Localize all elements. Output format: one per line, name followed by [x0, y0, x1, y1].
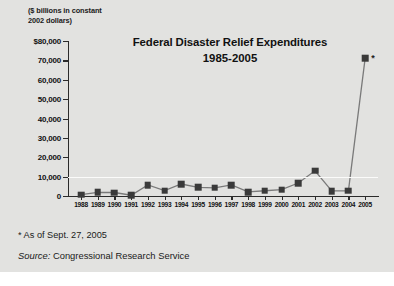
data-point-marker [145, 182, 152, 189]
x-axis-tick-label: 1994 [174, 201, 188, 208]
x-axis-tick [248, 196, 249, 200]
y-axis-tick [63, 138, 68, 139]
data-point-marker [178, 181, 185, 188]
data-point-marker [362, 55, 369, 62]
y-axis-tick-label: 30,000 [38, 133, 61, 142]
x-axis-tick [315, 196, 316, 200]
x-axis-tick [114, 196, 115, 200]
x-axis-tick-label: 2004 [342, 201, 356, 208]
data-point-marker [111, 189, 118, 196]
y-axis-tick [63, 80, 68, 81]
data-point-marker [78, 191, 85, 198]
y-axis-tick-label: $80,000 [33, 37, 61, 46]
x-axis-tick [298, 196, 299, 200]
source-line: Source: Congressional Research Service [18, 250, 189, 261]
y-axis-tick [63, 60, 68, 61]
x-axis-tick-label: 1995 [191, 201, 205, 208]
data-point-marker [312, 168, 319, 175]
x-axis-tick-label: 1993 [158, 201, 172, 208]
data-point-marker [278, 186, 285, 193]
y-axis-units-note: ($ billions in constant 2002 dollars) [28, 6, 102, 25]
x-axis-tick [98, 196, 99, 200]
x-axis-tick-label: 1988 [74, 201, 88, 208]
y-axis-tick [63, 157, 68, 158]
data-point-marker [195, 184, 202, 191]
x-axis-tick [148, 196, 149, 200]
data-point-marker [295, 180, 302, 187]
y-axis-tick-label: 0 [57, 192, 61, 201]
x-axis-tick-label: 1992 [141, 201, 155, 208]
x-axis-tick-label: 2005 [358, 201, 372, 208]
y-axis-tick-label: 60,000 [38, 75, 61, 84]
data-point-marker [262, 187, 269, 194]
x-axis-tick-label: 1996 [208, 201, 222, 208]
source-label: Source: [18, 250, 50, 261]
chart-figure: ($ billions in constant 2002 dollars) Fe… [0, 0, 394, 272]
x-axis-tick [348, 196, 349, 200]
y-axis-tick-label: 70,000 [38, 56, 61, 65]
x-axis-tick [198, 196, 199, 200]
data-point-marker [245, 189, 252, 196]
x-axis-tick [265, 196, 266, 200]
y-axis-tick-label: 10,000 [38, 172, 61, 181]
footnote-asof: * As of Sept. 27, 2005 [18, 230, 107, 240]
y-axis-tick [63, 41, 68, 42]
x-axis-tick [181, 196, 182, 200]
y-axis-tick-label: 40,000 [38, 114, 61, 123]
x-axis-tick [165, 196, 166, 200]
x-axis-tick [282, 196, 283, 200]
x-axis-tick-label: 1990 [108, 201, 122, 208]
y-axis-tick-label: 50,000 [38, 95, 61, 104]
x-axis-tick-label: 1998 [241, 201, 255, 208]
series-line [68, 41, 378, 196]
x-axis-tick-label: 1999 [258, 201, 272, 208]
x-axis-tick-label: 2001 [291, 201, 305, 208]
x-axis-tick [365, 196, 366, 200]
x-axis-tick-label: 1991 [124, 201, 138, 208]
spike-asterisk-annotation: * [371, 53, 375, 63]
data-point-marker [345, 187, 352, 194]
data-point-marker [211, 185, 218, 192]
x-axis-tick [332, 196, 333, 200]
y-axis-tick [63, 196, 68, 197]
x-axis-tick-label: 2003 [325, 201, 339, 208]
x-axis-tick-label: 2002 [308, 201, 322, 208]
y-axis-tick [63, 119, 68, 120]
y-axis-tick [63, 99, 68, 100]
x-axis-tick [215, 196, 216, 200]
data-point-marker [328, 188, 335, 195]
data-point-marker [161, 187, 168, 194]
gridline [68, 177, 378, 178]
x-axis-tick-label: 1997 [225, 201, 239, 208]
x-axis-tick [231, 196, 232, 200]
data-point-marker [228, 182, 235, 189]
series-polyline [81, 58, 365, 195]
y-axis-tick-label: 20,000 [38, 153, 61, 162]
data-point-marker [94, 189, 101, 196]
data-point-marker [128, 192, 135, 199]
source-value: Congressional Research Service [50, 250, 189, 261]
x-axis-tick-label: 1989 [91, 201, 105, 208]
plot-area: 010,00020,00030,00040,00050,00060,00070,… [68, 41, 378, 196]
x-axis-tick-label: 2000 [275, 201, 289, 208]
